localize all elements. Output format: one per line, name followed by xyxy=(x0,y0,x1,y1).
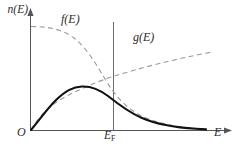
fermi-energy-label: EF xyxy=(104,130,115,143)
x-axis-label: E xyxy=(214,126,221,138)
origin-label: O xyxy=(17,126,26,138)
curve-electron-distribution xyxy=(31,86,206,130)
y-axis-label: n(E) xyxy=(8,4,28,16)
curve-density-of-states xyxy=(31,52,212,130)
fermi-energy-subscript: F xyxy=(111,134,115,143)
curve-label-f-of-e: f(E) xyxy=(61,13,80,25)
plot-area xyxy=(0,0,236,148)
y-axis-arrow-icon xyxy=(27,8,33,16)
fermi-distribution-figure: n(E) f(E) g(E) O EF E xyxy=(0,0,236,148)
curve-label-g-of-e: g(E) xyxy=(133,31,154,43)
x-axis-arrow-icon xyxy=(224,127,232,133)
fermi-energy-symbol: E xyxy=(104,129,111,141)
curve-fermi-function xyxy=(31,27,206,130)
